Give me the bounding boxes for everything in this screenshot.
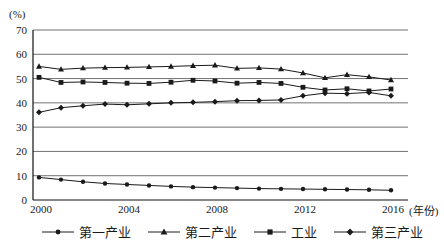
square-marker — [279, 81, 284, 86]
square-marker-icon — [254, 226, 286, 238]
square-marker — [125, 81, 130, 86]
x-tick-label: 2016 — [376, 203, 410, 215]
y-axis-unit-label: (%) — [9, 8, 26, 20]
series-line-1 — [39, 65, 391, 80]
legend-item-3: 第三产业 — [334, 222, 423, 241]
circle-marker-icon — [42, 226, 74, 238]
diamond-marker — [278, 97, 284, 103]
circle-marker — [81, 180, 85, 184]
diamond-marker — [168, 100, 174, 106]
circle-marker — [191, 185, 195, 189]
circle-marker — [367, 188, 371, 192]
diamond-marker — [388, 93, 394, 99]
circle-marker — [301, 187, 305, 191]
diamond-marker — [146, 101, 152, 107]
y-tick-label: 50 — [5, 73, 27, 85]
square-marker — [81, 80, 86, 85]
y-tick-label: 30 — [5, 121, 27, 133]
triangle-marker — [36, 63, 42, 68]
square-marker — [37, 75, 42, 80]
y-tick-label: 40 — [5, 97, 27, 109]
legend-label: 第一产业 — [79, 222, 131, 241]
circle-marker — [323, 187, 327, 191]
legend-item-0: 第一产业 — [42, 222, 131, 241]
circle-marker — [37, 175, 41, 179]
circle-marker — [147, 183, 151, 187]
diamond-marker — [190, 99, 196, 105]
circle-marker — [279, 187, 283, 191]
triangle-marker — [344, 71, 350, 76]
y-tick-label: 70 — [5, 24, 27, 36]
square-marker — [169, 80, 174, 85]
y-tick-label: 20 — [5, 145, 27, 157]
square-marker — [147, 81, 152, 86]
diamond-marker — [102, 101, 108, 107]
diamond-marker — [36, 109, 42, 115]
diamond-marker — [344, 91, 350, 97]
x-tick-label: 2012 — [288, 203, 322, 215]
legend-label: 第三产业 — [371, 222, 423, 241]
triangle-marker — [212, 62, 218, 67]
circle-marker — [389, 188, 393, 192]
diamond-marker-icon — [334, 226, 366, 238]
legend-label: 工业 — [291, 222, 317, 241]
circle-marker — [257, 186, 261, 190]
circle-marker — [213, 185, 217, 189]
diamond-marker — [58, 105, 64, 111]
triangle-marker-icon — [148, 226, 180, 238]
square-marker — [191, 78, 196, 83]
circle-marker — [235, 186, 239, 190]
square-marker — [235, 81, 240, 86]
square-marker — [213, 79, 218, 84]
circle-marker — [345, 187, 349, 191]
x-tick-label: 2004 — [112, 203, 146, 215]
circle-marker — [125, 182, 129, 186]
x-tick-label: 2008 — [200, 203, 234, 215]
circle-marker — [59, 177, 63, 181]
diamond-marker — [212, 99, 218, 105]
diamond-marker — [300, 93, 306, 99]
square-marker — [389, 87, 394, 92]
chart-legend: 第一产业第二产业工业第三产业 — [42, 222, 423, 241]
y-tick-label: 60 — [5, 48, 27, 60]
square-marker — [257, 80, 262, 85]
square-marker — [103, 80, 108, 85]
square-marker — [301, 85, 306, 90]
triangle-marker — [256, 65, 262, 70]
diamond-marker — [80, 103, 86, 109]
legend-item-1: 第二产业 — [148, 222, 237, 241]
square-marker — [345, 86, 350, 91]
circle-marker — [169, 184, 173, 188]
x-axis-unit-label: (年份) — [409, 202, 438, 218]
circle-marker — [103, 181, 107, 185]
square-marker — [59, 80, 64, 85]
y-tick-label: 10 — [5, 170, 27, 182]
legend-label: 第二产业 — [185, 222, 237, 241]
x-tick-label: 2000 — [24, 203, 58, 215]
legend-item-2: 工业 — [254, 222, 317, 241]
chart-container: (%) (年份) 010203040506070 200020042008201… — [0, 0, 444, 251]
